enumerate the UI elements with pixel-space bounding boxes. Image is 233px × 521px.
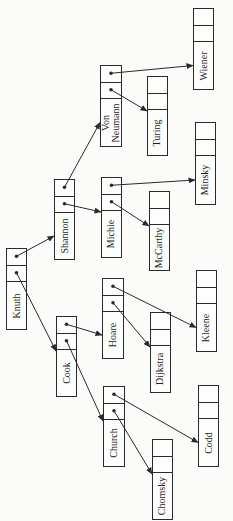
pointer-arrow-knuth-to-cook [17,273,57,351]
pointer-arrow-shannon-to-vonneumann [65,123,101,188]
pointer-arrow-shannon-to-michie [65,204,102,212]
pointer-arrow-michie-to-minsky [112,180,196,185]
pointer-arrow-church-to-codd [114,394,198,442]
pointer-arrows [0,0,233,521]
pointer-arrow-hoare-to-kleene [113,286,196,327]
pointer-arrow-vonneumann-to-turing [111,90,147,111]
tree-diagram: KnuthShannonCookVon NeumannMichieHoareCh… [0,0,233,521]
pointer-arrow-michie-to-mccarthy [112,202,150,226]
pointer-arrow-church-to-chomsky [114,411,152,474]
pointer-arrow-cook-to-hoare [67,324,103,335]
pointer-arrow-vonneumann-to-wiener [111,66,193,74]
pointer-arrow-cook-to-church [67,341,104,421]
pointer-arrow-knuth-to-shannon [17,236,55,256]
pointer-arrow-hoare-to-dijkstra [113,303,150,347]
